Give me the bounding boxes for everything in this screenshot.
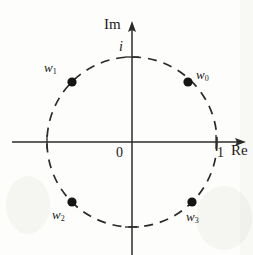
data-point-w2[interactable] [67, 197, 76, 206]
data-point-label-w3: w3 [186, 210, 199, 225]
real-unit-tick-label: 1 [217, 146, 224, 160]
imaginary-axis [128, 21, 136, 255]
imaginary-unit-tick-label: i [119, 40, 123, 54]
data-point-label-w2: w2 [52, 208, 65, 223]
data-point-w1[interactable] [67, 77, 76, 86]
complex-plane-figure: Im i Re 1 0 w0 w1 w2 w3 [0, 0, 253, 255]
origin-label: 0 [116, 146, 123, 160]
data-point-w0[interactable] [183, 77, 192, 86]
real-axis-label: Re [231, 143, 248, 158]
imaginary-axis-label: Im [104, 17, 121, 32]
data-point-w3[interactable] [187, 197, 196, 206]
data-point-label-w1: w1 [44, 61, 57, 76]
data-point-label-w0: w0 [196, 68, 209, 83]
figure-canvas [0, 0, 253, 255]
